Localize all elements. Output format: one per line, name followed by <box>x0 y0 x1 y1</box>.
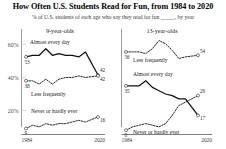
x-label-start-right: 1984 <box>122 137 133 143</box>
endpoint-9yo-aed-end: 42 <box>100 67 106 73</box>
y-axis-left: 60% 40% 20% <box>8 29 26 127</box>
line-9yo-never <box>26 117 98 129</box>
marker-13yo-never-end <box>197 94 200 97</box>
series-label-9yo-almost-every-day: Almost every day <box>30 39 70 45</box>
page-title: How Often U.S. Students Read for Fun, fr… <box>0 2 226 11</box>
x-label-end-right: 2020 <box>201 137 212 143</box>
y-tick-label-60: 60% <box>8 42 19 48</box>
chart-figure: How Often U.S. Students Read for Fun, fr… <box>0 0 226 149</box>
endpoint-9yo-never-end: 16 <box>100 117 106 123</box>
x-label-end-left: 2020 <box>94 137 105 143</box>
line-9yo-less-frequently <box>26 76 98 84</box>
chart-svg: 60% 40% 20% 9-year-olds Almost every day… <box>0 24 226 149</box>
line-9yo-almost-every-day <box>26 49 98 75</box>
marker-13yo-lf-end <box>197 54 200 57</box>
endpoint-13yo-lf-end: 54 <box>200 48 206 54</box>
series-label-13yo-almost-every-day: Almost every day <box>133 71 173 77</box>
endpoint-9yo-lf-end: 42 <box>100 76 106 82</box>
endpoint-13yo-never-end: 29 <box>200 88 206 94</box>
chart-plot-area: 60% 40% 20% 9-year-olds Almost every day… <box>0 24 226 149</box>
line-13yo-never <box>126 96 198 131</box>
series-label-13yo-less-frequently: Less frequently <box>133 57 168 63</box>
line-13yo-less-frequently <box>126 41 198 59</box>
panel-13-year-olds: 13-year-olds 56 54 Less frequently 35 17… <box>122 27 213 143</box>
panel-title-right: 13-year-olds <box>146 27 178 34</box>
page-subtitle: % of U.S. students of each age who say t… <box>0 14 226 20</box>
line-13yo-almost-every-day <box>126 81 198 116</box>
endpoint-9yo-lf-start: 38 <box>25 83 31 89</box>
series-label-9yo-never: Never or hardly ever <box>31 108 78 114</box>
endpoint-9yo-never-start: 9 <box>25 130 28 136</box>
endpoint-9yo-aed-start: 53 <box>25 59 31 65</box>
x-label-start-left: 1984 <box>22 137 33 143</box>
panel-title-left: 9-year-olds <box>46 27 75 34</box>
series-label-9yo-less-frequently: Less frequently <box>31 91 66 97</box>
y-tick-label-40: 40% <box>8 75 19 81</box>
series-label-13yo-never: Never or hardly ever <box>133 129 180 135</box>
y-tick-label-20: 20% <box>8 108 19 114</box>
panel-9-year-olds: 60% 40% 20% 9-year-olds Almost every day… <box>8 27 106 143</box>
endpoint-13yo-aed-start: 35 <box>125 88 131 94</box>
endpoint-13yo-lf-start: 56 <box>125 54 131 60</box>
endpoint-13yo-aed-end: 17 <box>200 115 206 121</box>
